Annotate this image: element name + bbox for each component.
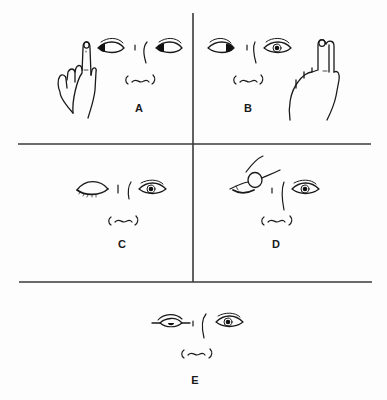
nose-icon: [262, 182, 292, 225]
nose-icon: [109, 182, 138, 225]
panel-b: [208, 38, 339, 120]
nose-icon: [234, 42, 263, 84]
nose-icon: [126, 42, 155, 84]
label-e: E: [191, 374, 198, 386]
hand-icon: [58, 42, 96, 118]
diagram-canvas: A B: [0, 0, 387, 400]
left-eye-icon: [264, 38, 291, 52]
label-a: A: [135, 102, 143, 114]
label-d: D: [272, 238, 280, 250]
closed-right-eye-icon: [77, 182, 108, 197]
left-eye-icon: [216, 313, 243, 326]
panel-a-label: A: [135, 102, 143, 114]
right-eye-icon: [208, 38, 234, 52]
panel-e: [152, 313, 243, 358]
label-c: C: [118, 238, 126, 250]
left-eye-icon: [139, 180, 166, 193]
panel-d: [230, 156, 319, 225]
panel-c: [77, 180, 166, 225]
label-b: B: [244, 102, 252, 114]
droopy-right-eye-icon: [152, 315, 190, 327]
panel-dividers: [18, 13, 372, 282]
left-eye-icon: [292, 180, 319, 193]
hand-icon: [289, 40, 339, 120]
panel-a: [58, 38, 182, 118]
thumb-on-eyelid-icon: [230, 156, 280, 193]
nose-icon: [182, 314, 212, 358]
left-eye-icon: [156, 38, 182, 52]
right-eye-icon: [98, 38, 124, 52]
